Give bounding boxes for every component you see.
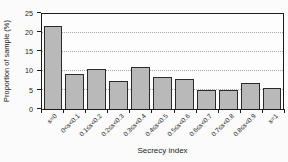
x-tick-label: 0.7≤s<0.8 bbox=[210, 113, 235, 138]
x-tick-label: s=0 bbox=[46, 113, 58, 125]
y-tick-label: 5 bbox=[29, 86, 33, 93]
bar bbox=[87, 69, 106, 109]
bar bbox=[175, 79, 194, 109]
bars bbox=[42, 14, 283, 109]
bar bbox=[65, 74, 84, 109]
secrecy-index-histogram-figure: Proportion of sample (%) 0510152025 s=00… bbox=[0, 0, 288, 162]
y-axis: 0510152025 bbox=[0, 13, 41, 109]
x-tick-mark bbox=[284, 109, 285, 113]
bar-slot bbox=[152, 14, 174, 109]
bar-slot bbox=[64, 14, 86, 109]
bar bbox=[241, 83, 260, 109]
y-tick-label: 25 bbox=[25, 9, 33, 16]
bar-slot bbox=[42, 14, 64, 109]
y-tick-label: 20 bbox=[25, 29, 33, 36]
bar bbox=[219, 90, 238, 109]
bar bbox=[109, 81, 128, 109]
bar bbox=[153, 77, 172, 109]
bar-slot bbox=[239, 14, 261, 109]
x-tick-label: 0.2≤s<0.3 bbox=[100, 113, 125, 138]
bar-slot bbox=[195, 14, 217, 109]
bar bbox=[197, 90, 216, 109]
bar-slot bbox=[86, 14, 108, 109]
x-tick-label: s=1 bbox=[267, 113, 279, 125]
x-axis-labels: s=00<s<0.10.1≤s<0.20.2≤s<0.30.3≤s<0.40.4… bbox=[41, 113, 284, 147]
plot-area bbox=[41, 13, 284, 110]
bar-slot bbox=[217, 14, 239, 109]
bar-slot bbox=[173, 14, 195, 109]
x-tick-label: 0.4≤s<0.5 bbox=[144, 113, 169, 138]
x-axis-title: Secrecy index bbox=[41, 146, 284, 155]
bar-slot bbox=[130, 14, 152, 109]
x-tick-label: 0.6≤s<0.7 bbox=[188, 113, 213, 138]
bar-slot bbox=[261, 14, 283, 109]
x-tick-label: 0.5≤s<0.6 bbox=[166, 113, 191, 138]
x-tick-label: 0.3≤s<0.4 bbox=[122, 113, 147, 138]
bar bbox=[44, 26, 63, 109]
y-tick-label: 0 bbox=[29, 105, 33, 112]
x-tick-label: 0.8≤s<0.9 bbox=[233, 113, 258, 138]
y-tick-label: 10 bbox=[25, 67, 33, 74]
bar-slot bbox=[108, 14, 130, 109]
x-tick-label: 0.1≤s<0.2 bbox=[78, 113, 103, 138]
bar bbox=[131, 67, 150, 109]
bar bbox=[263, 88, 282, 109]
y-tick-label: 15 bbox=[25, 48, 33, 55]
